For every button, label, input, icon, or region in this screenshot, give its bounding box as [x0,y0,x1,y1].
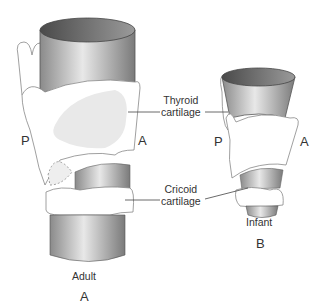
cricoid-label: Cricoid cartilage [161,183,201,207]
thyroid-label-line1: Thyroid [161,94,201,106]
thyroid-label: Thyroid cartilage [161,94,201,118]
adult-posterior-label: P [21,135,30,147]
larynx-illustration [0,0,320,307]
infant-posterior-label: P [214,136,223,148]
adult-caption: Adult [72,270,96,282]
larynx-diagram: Thyroid cartilage Cricoid cartilage P A … [0,0,320,307]
adult-anterior-label: A [138,135,147,147]
infant-anterior-label: A [300,136,309,148]
cricoid-label-line2: cartilage [161,195,201,207]
panel-a-letter: A [80,291,89,303]
infant-caption: Infant [246,216,272,228]
cricoid-label-line1: Cricoid [161,183,201,195]
panel-b-letter: B [256,238,265,250]
thyroid-label-line2: cartilage [161,106,201,118]
